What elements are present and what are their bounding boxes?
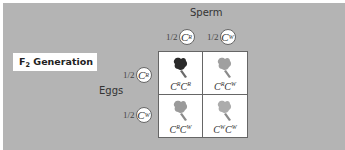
- allele-sup: W: [220, 124, 225, 130]
- cell-cr-cr: CRCR: [159, 52, 203, 95]
- cell-cw-cw: CWCW: [203, 95, 247, 138]
- allele-sup: R: [177, 81, 181, 87]
- fraction: 1/2: [166, 32, 178, 42]
- allele-circle: CW: [136, 107, 152, 123]
- diagram-canvas: F2 Generation Sperm Eggs 1/2 CR 1/2 CW 1…: [3, 3, 345, 150]
- allele-circle: CR: [136, 67, 152, 83]
- cell-cr-cw: CRCW: [159, 95, 203, 138]
- allele-sup: R: [188, 34, 192, 40]
- allele-sup: W: [145, 112, 150, 118]
- fraction: 1/2: [123, 70, 135, 80]
- pink-flower-icon: [214, 56, 236, 80]
- egg-allele-r: 1/2 CR: [123, 67, 152, 83]
- egg-allele-w: 1/2 CW: [123, 107, 152, 123]
- allele-base: C: [221, 31, 228, 43]
- eggs-label: Eggs: [99, 85, 123, 96]
- genotype: CWCW: [213, 124, 236, 135]
- punnett-square: CRCR CRCW CRCW CWCW: [158, 51, 248, 138]
- fraction: 1/2: [123, 110, 135, 120]
- cell-cr-cw: CRCW: [203, 52, 247, 95]
- allele-sup: R: [187, 81, 191, 87]
- sperm-label: Sperm: [190, 7, 223, 18]
- genotype: CRCR: [170, 81, 191, 92]
- title-suffix: Generation: [30, 56, 93, 67]
- sperm-allele-w: 1/2 CW: [207, 29, 236, 45]
- sperm-allele-r: 1/2 CR: [166, 29, 195, 45]
- allele-sup: R: [176, 124, 180, 130]
- allele-base: C: [137, 109, 144, 121]
- allele-sup: W: [232, 124, 237, 130]
- allele-sup: W: [231, 81, 236, 87]
- fraction: 1/2: [207, 32, 219, 42]
- allele-sup: W: [187, 124, 192, 130]
- white-flower-icon: [214, 99, 236, 123]
- allele-circle: CR: [179, 29, 195, 45]
- genotype: CRCW: [214, 81, 236, 92]
- allele-sup: R: [221, 81, 225, 87]
- red-flower-icon: [170, 56, 192, 80]
- genotype: CRCW: [169, 124, 191, 135]
- allele-circle: CW: [220, 29, 236, 45]
- generation-title: F2 Generation: [13, 53, 97, 71]
- allele-sup: W: [229, 34, 234, 40]
- allele-sup: R: [145, 72, 149, 78]
- pink-flower-icon: [170, 99, 192, 123]
